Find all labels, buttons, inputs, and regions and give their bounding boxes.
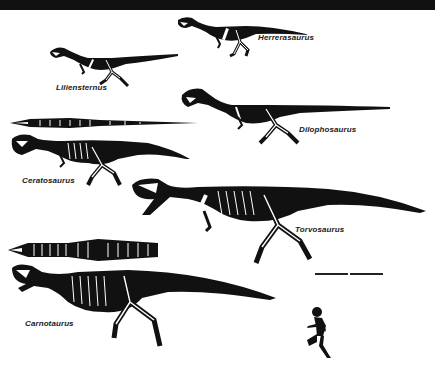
skeletal-diagram: Herrerasaurus Liliensternus Dilophosauru…	[0, 0, 435, 371]
label-herrerasaurus: Herrerasaurus	[258, 33, 314, 42]
torvosaurus-skeleton	[128, 175, 428, 275]
label-dilophosaurus: Dilophosaurus	[299, 125, 356, 134]
top-border-bar	[0, 0, 435, 10]
scale-bar-segment-1	[315, 273, 348, 275]
label-liliensternus: Liliensternus	[56, 83, 107, 92]
carnotaurus-dorsal-skeleton	[8, 237, 160, 263]
liliensternus-skeleton	[50, 44, 180, 88]
scale-bar	[315, 273, 383, 275]
label-torvosaurus: Torvosaurus	[295, 225, 344, 234]
label-ceratosaurus: Ceratosaurus	[22, 176, 75, 185]
ceratosaurus-dorsal-skeleton	[10, 116, 200, 130]
scale-bar-segment-2	[350, 273, 383, 275]
label-carnotaurus: Carnotaurus	[25, 319, 74, 328]
running-human-silhouette-icon	[305, 306, 335, 366]
dilophosaurus-skeleton	[180, 85, 395, 145]
carnotaurus-lateral-skeleton	[8, 262, 278, 362]
